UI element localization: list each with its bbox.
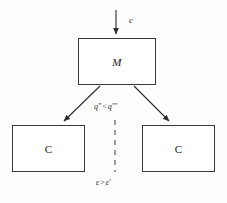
- node-c-right-label: C: [175, 143, 183, 155]
- edge-branch-right-arrow: [134, 86, 169, 121]
- edge-label-input: c: [129, 16, 133, 25]
- bottom-compare-right-term: ε′: [106, 178, 111, 187]
- diagram-canvas: M C C c q″<q′″ ε>ε′: [0, 0, 227, 203]
- node-c-left[interactable]: C: [12, 125, 85, 172]
- node-m[interactable]: M: [78, 38, 156, 85]
- edge-label-input-text: c: [129, 15, 133, 25]
- edge-label-bottom-compare: ε>ε′: [96, 179, 111, 187]
- edge-label-branch-compare: q″<q′″: [94, 103, 117, 111]
- node-m-label: M: [112, 56, 121, 68]
- branch-compare-right-term: q′″: [108, 102, 117, 111]
- node-c-right[interactable]: C: [142, 125, 215, 172]
- node-c-left-label: C: [45, 143, 53, 155]
